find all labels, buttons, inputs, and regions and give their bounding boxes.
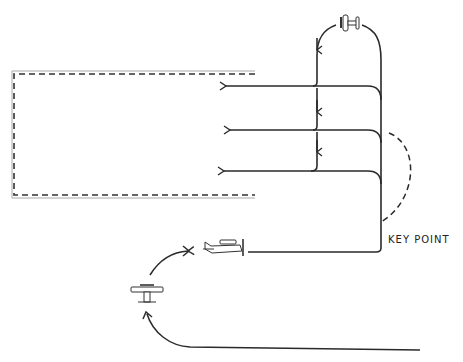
approach-lanes (224, 86, 381, 184)
key-point-label: KEY POINT (388, 234, 450, 245)
flight-pattern-diagram (0, 0, 463, 362)
turn-arrows (143, 246, 420, 350)
front-view-aircraft-icon (131, 285, 163, 302)
landing-area (12, 71, 255, 198)
side-view-aircraft-icon (203, 239, 243, 256)
overhead-aircraft-icon (341, 15, 359, 31)
alternate-path (381, 133, 411, 222)
overhead-loop (248, 25, 381, 252)
